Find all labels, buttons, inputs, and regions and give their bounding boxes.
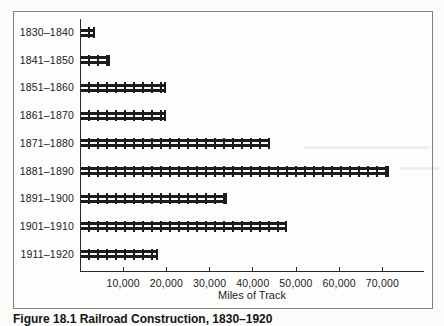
figure-caption: Figure 18.1 Railroad Construction, 1830–…	[13, 312, 433, 326]
chart-frame: Miles of Track 1830–18401841–18501851–18…	[13, 11, 433, 309]
x-axis-tick	[166, 267, 167, 271]
x-axis-tick	[123, 267, 124, 271]
plot-area: Miles of Track 1830–18401841–18501851–18…	[14, 12, 432, 308]
scan-artifact	[304, 146, 429, 149]
railroad-track-bar	[81, 166, 389, 177]
railroad-track-bar	[81, 249, 158, 260]
x-axis-tick	[209, 267, 210, 271]
category-label: 1891–1900	[16, 192, 74, 204]
x-axis-tick	[339, 267, 340, 271]
category-label: 1830–1840	[16, 26, 74, 38]
category-label: 1861–1870	[16, 109, 74, 121]
x-axis-tick	[252, 267, 253, 271]
x-axis-tick	[382, 267, 383, 271]
railroad-track-bar	[81, 27, 95, 38]
x-axis-title: Miles of Track	[80, 289, 424, 301]
category-label: 1881–1890	[16, 165, 74, 177]
railroad-track-bar	[81, 193, 227, 204]
x-axis-line	[80, 271, 424, 272]
category-label: 1901–1910	[16, 220, 74, 232]
railroad-track-bar	[81, 110, 166, 121]
category-label: 1911–1920	[16, 248, 74, 260]
category-label: 1841–1850	[16, 54, 74, 66]
x-axis-tick-label: 70,000	[357, 277, 407, 289]
railroad-track-bar	[81, 138, 270, 149]
railroad-track-bar	[81, 55, 110, 66]
railroad-track-bar	[81, 221, 287, 232]
x-axis-tick	[296, 267, 297, 271]
scan-artifact	[399, 167, 439, 170]
category-label: 1871–1880	[16, 137, 74, 149]
railroad-track-bar	[81, 82, 166, 93]
category-label: 1851–1860	[16, 81, 74, 93]
